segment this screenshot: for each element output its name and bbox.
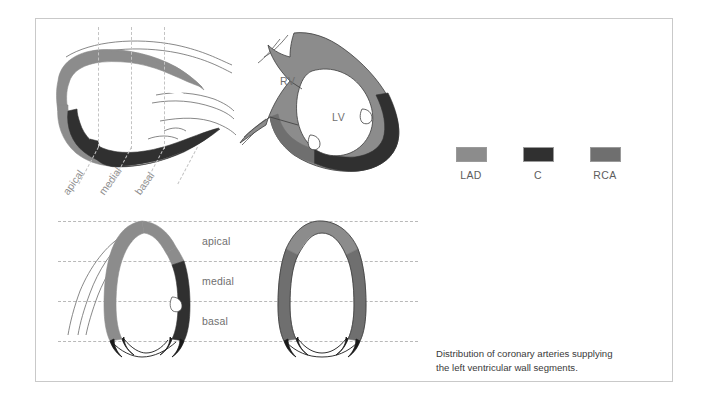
heart-short-axis-drawing	[236, 21, 436, 193]
legend-item-rca: RCA	[580, 147, 630, 181]
segment-lad-apical-cap	[142, 221, 176, 253]
panel-horizontal-long-axis: apical medial basal	[36, 19, 256, 204]
zone-label-apical-lower: apical	[202, 235, 231, 247]
segment-lad-left-wall	[104, 221, 144, 341]
panel-vertical-long-axis: apical medial basal	[36, 209, 436, 359]
guide-vertical-1	[98, 27, 99, 147]
caption-line-1: Distribution of coronary arteries supply…	[436, 347, 668, 361]
heart-vertical-long-axis-right	[264, 209, 424, 359]
zone-label-basal-lower: basal	[202, 315, 228, 327]
figure-frame: apical medial basal	[35, 18, 673, 382]
legend-label-lad: LAD	[446, 169, 496, 181]
chamber-label-lv: LV	[332, 111, 345, 123]
segment-lad-apical-cap-right	[286, 221, 358, 255]
chamber-label-rv: RV	[280, 75, 296, 87]
legend-swatch-c	[523, 147, 554, 162]
legend-swatch-rca	[590, 147, 621, 162]
guide-vertical-2	[131, 27, 132, 149]
segment-c-band	[68, 109, 219, 165]
legend-item-lad: LAD	[446, 147, 496, 181]
guide-vertical-3	[164, 27, 165, 149]
caption-line-2: the left ventricular wall segments.	[436, 361, 668, 375]
figure-caption: Distribution of coronary arteries supply…	[436, 347, 668, 376]
zone-label-medial-lower: medial	[202, 275, 234, 287]
legend: LAD C RCA	[446, 147, 646, 209]
legend-label-c: C	[513, 169, 563, 181]
cavity-highlight	[79, 78, 188, 118]
legend-swatch-lad	[456, 147, 487, 162]
legend-label-rca: RCA	[580, 169, 630, 181]
panel-short-axis: RV LV	[236, 21, 436, 193]
legend-item-c: C	[513, 147, 563, 181]
